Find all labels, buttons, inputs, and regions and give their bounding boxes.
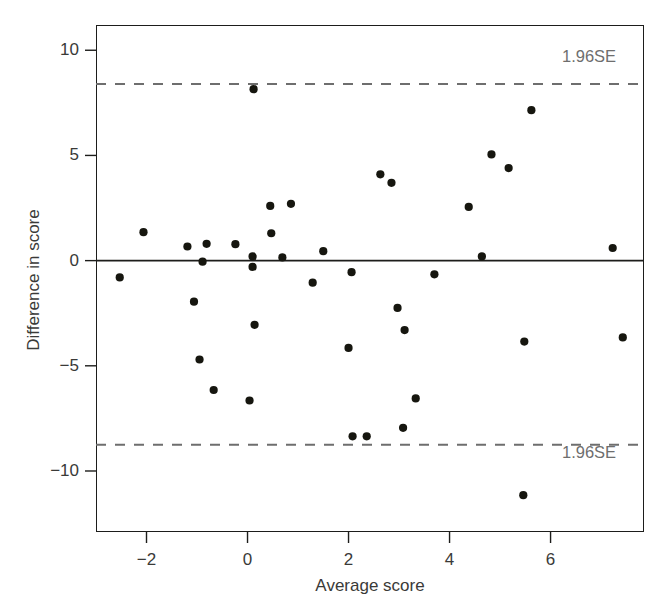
- x-axis-title: Average score: [270, 576, 470, 596]
- y-tick-label: −10: [21, 461, 79, 481]
- upper-limit-label: 1.96SE: [562, 47, 616, 66]
- y-axis-title: Difference in score: [24, 130, 44, 430]
- x-tick-label: −2: [137, 550, 156, 570]
- y-tick-label: 10: [21, 40, 79, 60]
- x-tick-label: 6: [546, 550, 555, 570]
- x-tick-label: 2: [344, 550, 353, 570]
- bland-altman-scatter-figure: 10 5 0 −5 −10 −2 0 2 4 6 Difference in s…: [0, 0, 666, 612]
- x-tick-label: 0: [243, 550, 252, 570]
- x-tick-label: 4: [445, 550, 454, 570]
- lower-limit-label: 1.96SE: [562, 443, 616, 462]
